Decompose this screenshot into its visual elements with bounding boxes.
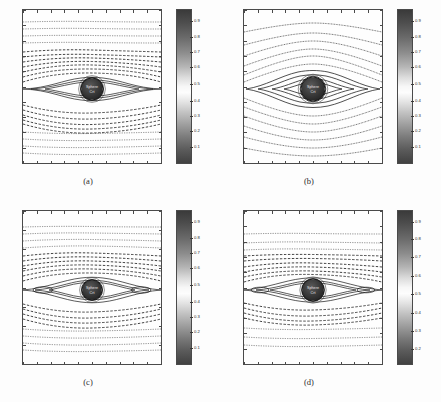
colorbar-tick-label: 0.8 <box>415 34 421 38</box>
colorbar-tick-label: 0.7 <box>415 50 421 54</box>
colorbar-tick-label: 0.3 <box>415 329 421 333</box>
colorbar-tick-label: 0.5 <box>415 292 421 296</box>
axes-c: Sphere Crt 4 3 2 1 <box>22 210 162 365</box>
figure-contour-grid: Sphere Crt 5 4 <box>0 0 441 402</box>
panel-c: Sphere Crt 4 3 2 1 <box>0 201 220 402</box>
panel-caption-c: (c) <box>0 377 176 387</box>
sphere-marker-c: Sphere Crt <box>82 280 103 301</box>
colorbar-gradient <box>397 210 413 365</box>
colorbar-tick-label: 0.5 <box>194 82 200 86</box>
panel-d: Sphere Crt 5 4 <box>221 201 441 402</box>
colorbar-tick-label: 0.4 <box>194 300 200 304</box>
colorbar-tick-label: 0.8 <box>415 237 421 241</box>
panel-b: Sphere Crt 5 4 <box>221 0 441 201</box>
colorbar-tick-label: 0.3 <box>194 315 200 319</box>
sphere-marker-a: Sphere Crt <box>81 78 104 101</box>
sphere-label-line2: Crt <box>89 89 94 93</box>
axes-d: Sphere Crt 5 4 <box>243 210 383 365</box>
colorbar-tick-label: 0.7 <box>194 251 200 255</box>
colorbar-tick-label: 0.7 <box>194 50 200 54</box>
colorbar-tick-label: 0.2 <box>194 129 200 133</box>
colorbar-gradient <box>397 9 413 164</box>
colorbar-tick-label: 0.7 <box>415 255 421 259</box>
colorbar-tick-label: 0.6 <box>415 274 421 278</box>
colorbar-tick-label: 0.9 <box>415 220 421 224</box>
colorbar-tick-label: 0.1 <box>415 145 421 149</box>
colorbar-gradient <box>176 210 192 365</box>
panel-caption-b: (b) <box>221 176 397 186</box>
colorbar-a: 0.9 0.8 0.7 0.6 0.5 0.4 0.3 0.2 0.1 <box>176 9 216 162</box>
colorbar-tick-label: 0.2 <box>415 347 421 351</box>
sphere-label-line2: Crt <box>310 89 315 93</box>
colorbar-b: 0.9 0.8 0.7 0.6 0.5 0.4 0.3 0.2 0.1 <box>397 9 437 162</box>
panel-a: Sphere Crt 5 4 <box>0 0 220 201</box>
colorbar-tick-label: 0.2 <box>415 129 421 133</box>
sphere-label-line2: Crt <box>310 290 315 294</box>
colorbar-tick-label: 0.6 <box>415 65 421 69</box>
colorbar-tick-label: 0.5 <box>194 283 200 287</box>
colorbar-tick-label: 0.8 <box>194 235 200 239</box>
colorbar-tick-label: 0.6 <box>194 266 200 270</box>
colorbar-tick-label: 0.3 <box>415 114 421 118</box>
colorbar-tick-label: 0.4 <box>415 310 421 314</box>
panel-caption-d: (d) <box>221 377 397 387</box>
colorbar-tick-label: 0.8 <box>194 34 200 38</box>
axes-b: Sphere Crt 5 4 <box>243 9 383 164</box>
colorbar-c: 0.9 0.8 0.7 0.6 0.5 0.4 0.3 0.2 0.1 <box>176 210 216 363</box>
colorbar-tick-label: 0.4 <box>194 99 200 103</box>
colorbar-d: 0.9 0.8 0.7 0.6 0.5 0.4 0.3 0.2 <box>397 210 437 363</box>
colorbar-tick-label: 0.9 <box>415 19 421 23</box>
colorbar-tick-label: 0.9 <box>194 19 200 23</box>
colorbar-tick-label: 0.1 <box>194 346 200 350</box>
colorbar-tick-label: 0.6 <box>194 65 200 69</box>
colorbar-tick-label: 0.3 <box>194 114 200 118</box>
colorbar-tick-label: 0.4 <box>415 99 421 103</box>
sphere-marker-d: Sphere Crt <box>302 279 325 302</box>
colorbar-tick-label: 0.1 <box>194 145 200 149</box>
axes-a: Sphere Crt 5 4 <box>22 9 162 164</box>
colorbar-tick-label: 0.5 <box>415 82 421 86</box>
panel-caption-a: (a) <box>0 176 176 186</box>
colorbar-tick-label: 0.9 <box>194 220 200 224</box>
colorbar-tick-label: 0.2 <box>194 330 200 334</box>
colorbar-gradient <box>176 9 192 164</box>
sphere-label-line2: Crt <box>89 290 94 294</box>
sphere-marker-b: Sphere Crt <box>301 77 326 102</box>
